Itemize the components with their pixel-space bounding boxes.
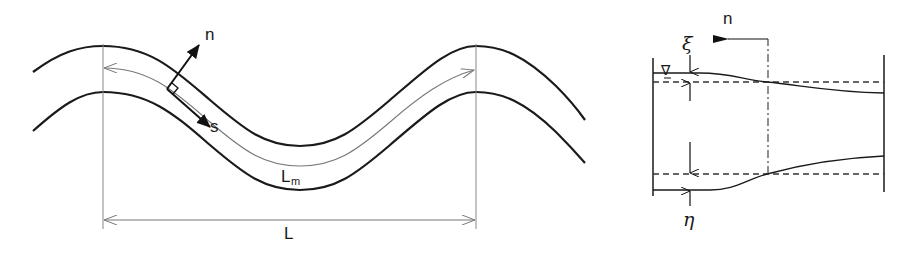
meander-plan-view: n s L m L	[33, 25, 585, 243]
label-eta: η	[683, 208, 695, 230]
label-n: n	[205, 25, 214, 44]
water-level-symbol: ∇	[660, 62, 671, 78]
label-section-n: n	[723, 9, 732, 28]
normal-vector-n	[167, 45, 199, 89]
label-s: s	[210, 117, 219, 136]
centerline-lm	[104, 68, 474, 166]
label-xi: ξ	[682, 32, 694, 54]
label-lm: L	[281, 167, 290, 186]
lower-bank	[33, 92, 585, 190]
cross-section-view: n ∇ ξ η	[653, 9, 884, 230]
label-lm-subscript: m	[291, 175, 300, 187]
label-wavelength: L	[284, 224, 293, 243]
diagram-canvas: n s L m L n ∇ ξ η	[0, 0, 911, 258]
